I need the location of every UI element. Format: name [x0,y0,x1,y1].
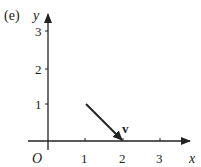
vector-v-arrow [86,104,122,140]
vector-diagram: (e) y x O 1 2 3 1 2 3 v [0,0,201,167]
x-tick-label-3: 3 [156,151,163,166]
y-axis-label: y [31,8,40,23]
x-tick-label-2: 2 [119,151,126,166]
y-tick-label-3: 3 [35,24,42,39]
y-tick-label-2: 2 [35,62,42,77]
origin-label: O [32,151,42,166]
y-tick-label-1: 1 [35,97,42,112]
part-label: (e) [4,8,20,24]
vector-v-label: v [122,121,129,136]
x-tick-label-1: 1 [81,151,88,166]
x-axis-label: x [188,151,196,166]
